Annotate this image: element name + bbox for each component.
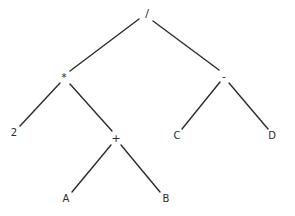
tree-edge [229, 83, 268, 129]
tree-node-c: C [174, 131, 181, 141]
expression-tree-diagram: /*-2+CDAB [0, 0, 295, 216]
tree-node-root: / [145, 8, 149, 19]
tree-node-two: 2 [11, 128, 17, 138]
tree-edge [121, 145, 160, 192]
tree-node-a: A [63, 194, 70, 204]
tree-node-plus: + [111, 133, 120, 144]
tree-node-mul: * [61, 72, 67, 83]
tree-edge [153, 21, 219, 70]
tree-edge [182, 82, 220, 129]
tree-node-b: B [163, 194, 170, 204]
tree-node-d: D [268, 131, 276, 141]
tree-node-minus: - [222, 71, 226, 82]
tree-edge [70, 19, 139, 71]
tree-edge [20, 83, 60, 126]
tree-edge [72, 145, 111, 192]
edge-group [20, 19, 268, 192]
tree-edge [70, 84, 112, 131]
tree-edges-layer [0, 0, 295, 216]
